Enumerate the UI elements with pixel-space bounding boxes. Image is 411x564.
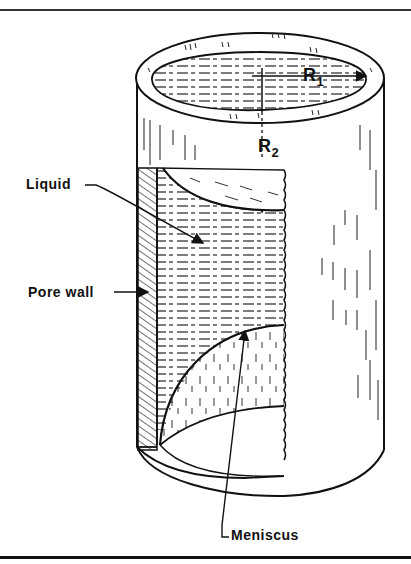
r1-subscript: 1	[317, 74, 325, 89]
label-pore-wall: Pore wall	[28, 284, 94, 300]
r2-symbol: R	[258, 136, 272, 156]
label-radius-r1: R1	[303, 65, 324, 86]
bottom-border-rule	[0, 556, 411, 559]
r2-subscript: 2	[272, 145, 280, 160]
r1-symbol: R	[303, 65, 317, 85]
label-radius-r2: R2	[258, 136, 279, 157]
label-liquid: Liquid	[26, 176, 71, 192]
pore-diagram-figure: Liquid Pore wall Meniscus R1 R2	[0, 0, 411, 564]
cylinder-drawing	[0, 0, 411, 564]
label-meniscus: Meniscus	[231, 527, 299, 543]
